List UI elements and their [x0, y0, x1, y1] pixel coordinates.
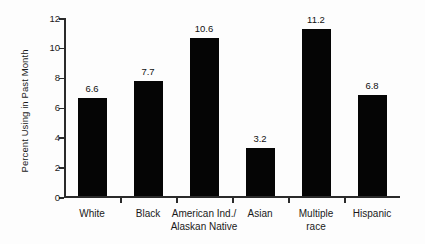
bar: 6.8 [358, 95, 387, 196]
bar-value-label: 11.2 [307, 14, 325, 26]
category-label: Hispanic [338, 208, 406, 221]
x-tick-mark [288, 197, 290, 203]
x-tick-mark [120, 197, 122, 203]
bar: 7.7 [134, 81, 163, 196]
bar-value-label: 10.6 [195, 23, 214, 35]
y-tick-label: 8 [55, 70, 60, 85]
y-tick-label: 10 [49, 40, 60, 55]
x-tick-mark [232, 197, 234, 203]
x-tick-mark [176, 197, 178, 203]
y-tick-label: 12 [49, 11, 60, 26]
bar-value-label: 7.7 [141, 66, 154, 78]
bar: 10.6 [190, 38, 219, 196]
y-tick-label: 0 [55, 190, 60, 205]
bar: 6.6 [78, 98, 107, 196]
bar-value-label: 6.6 [85, 83, 98, 95]
x-tick-mark [344, 197, 346, 203]
y-tick-label: 4 [55, 130, 60, 145]
y-axis-title: Percent Using in Past Month [17, 16, 33, 206]
bar: 11.2 [302, 29, 331, 196]
bar-chart-figure: Percent Using in Past Month 024681012 6.… [0, 0, 425, 244]
bar-value-label: 6.8 [365, 80, 378, 92]
plot-area: 024681012 6.67.710.63.211.26.8 WhiteBlac… [64, 18, 400, 197]
y-tick-label: 6 [55, 100, 60, 115]
y-tick-label: 2 [55, 160, 60, 175]
y-axis-line [64, 18, 66, 197]
bar-value-label: 3.2 [253, 133, 266, 145]
bar: 3.2 [246, 148, 275, 196]
